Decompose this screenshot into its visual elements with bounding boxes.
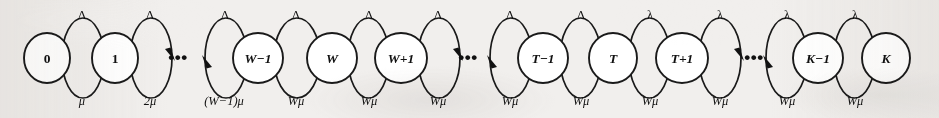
state-node-label: K−1 <box>805 51 830 66</box>
service-rate-label: 2μ <box>144 94 157 108</box>
arrival-rate-label: Λ <box>291 8 300 22</box>
arrival-rate-label: λ <box>784 8 790 22</box>
arrival-rate-label: Λ <box>145 8 154 22</box>
markov-chain-canvas: ΛΛΛΛΛΛΛΛλλλλ μ2μ(W−1)μWμWμWμWμWμWμWμWμWμ… <box>0 0 939 118</box>
state-node: T−1 <box>518 33 568 83</box>
state-node: T <box>589 33 637 83</box>
service-rate-label: (W−1)μ <box>204 94 244 108</box>
state-node-label: K <box>880 51 891 66</box>
state-node-label: W−1 <box>245 51 272 66</box>
state-node-label: 0 <box>44 51 51 66</box>
service-rate-label: Wμ <box>573 94 590 108</box>
service-rate-label: Wμ <box>847 94 864 108</box>
state-node: K−1 <box>793 33 843 83</box>
service-arrowhead <box>487 55 497 69</box>
state-node: K <box>862 33 910 83</box>
state-node: W+1 <box>375 33 427 83</box>
service-rate-label: Wμ <box>288 94 305 108</box>
service-rate-label: Wμ <box>779 94 796 108</box>
state-node: T+1 <box>656 33 708 83</box>
service-rate-label: Wμ <box>712 94 729 108</box>
ellipsis-separator: ••• <box>168 48 187 67</box>
arrival-rate-label: λ <box>647 8 653 22</box>
arrival-rate-label: Λ <box>364 8 373 22</box>
service-rate-label: Wμ <box>642 94 659 108</box>
service-arrowhead <box>763 55 773 69</box>
state-node-label: T−1 <box>531 51 554 66</box>
arrival-arrowhead <box>734 48 744 62</box>
state-node: 0 <box>24 33 70 83</box>
arrival-rate-label: Λ <box>220 8 229 22</box>
state-node: W <box>307 33 357 83</box>
arrival-rate-label: Λ <box>433 8 442 22</box>
state-node: 1 <box>92 33 138 83</box>
service-rate-label: Wμ <box>361 94 378 108</box>
arrival-rate-label: λ <box>852 8 858 22</box>
state-node-label: W+1 <box>388 51 414 66</box>
state-transition-diagram: ΛΛΛΛΛΛΛΛλλλλ μ2μ(W−1)μWμWμWμWμWμWμWμWμWμ… <box>0 0 939 118</box>
state-node-label: T <box>609 51 618 66</box>
arrival-rate-label: Λ <box>576 8 585 22</box>
state-node-label: W <box>326 51 339 66</box>
arrival-rate-label: Λ <box>505 8 514 22</box>
service-arrowhead <box>202 55 212 69</box>
service-rate-label: Wμ <box>502 94 519 108</box>
service-rate-label: μ <box>78 94 85 108</box>
state-node-label: 1 <box>112 51 119 66</box>
ellipsis-separator: ••• <box>458 48 477 67</box>
arrival-rate-label: Λ <box>77 8 86 22</box>
service-rate-label: Wμ <box>430 94 447 108</box>
arrival-rate-label: λ <box>717 8 723 22</box>
ellipsis-separator: ••• <box>744 48 763 67</box>
state-node-label: T+1 <box>671 51 694 66</box>
state-node: W−1 <box>233 33 283 83</box>
